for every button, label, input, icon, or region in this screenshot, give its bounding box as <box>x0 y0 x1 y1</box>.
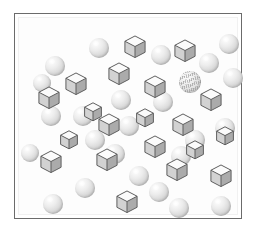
cube-object[interactable] <box>107 62 131 86</box>
cube-object[interactable] <box>59 130 79 150</box>
cube-faces <box>143 75 167 99</box>
panel-inner-border <box>18 17 238 215</box>
sphere-object[interactable] <box>21 144 39 162</box>
sphere-object[interactable] <box>149 182 169 202</box>
cube-faces <box>215 126 235 146</box>
cube-object[interactable] <box>185 140 205 160</box>
cube-faces <box>171 113 195 137</box>
sphere-object[interactable] <box>111 90 131 110</box>
stimulus-canvas <box>0 0 258 234</box>
cube-faces <box>135 108 155 128</box>
sphere-object[interactable] <box>129 166 149 186</box>
sphere-object[interactable] <box>199 53 219 73</box>
sphere-object[interactable] <box>169 198 189 218</box>
cube-faces <box>143 135 167 159</box>
cube-object[interactable] <box>165 158 189 182</box>
cube-faces <box>165 158 189 182</box>
sphere-object[interactable] <box>43 194 63 214</box>
cube-faces <box>64 72 88 96</box>
cube-object[interactable] <box>199 88 223 112</box>
cube-faces <box>123 35 147 59</box>
cube-faces <box>185 140 205 160</box>
cube-faces <box>83 102 103 122</box>
cube-faces <box>209 164 233 188</box>
sphere-object[interactable] <box>75 178 95 198</box>
cube-faces <box>173 39 197 63</box>
cube-object[interactable] <box>209 164 233 188</box>
cube-object[interactable] <box>39 150 63 174</box>
cube-object[interactable] <box>115 190 139 214</box>
cube-faces <box>37 86 61 110</box>
cube-faces <box>115 190 139 214</box>
cube-object[interactable] <box>95 148 119 172</box>
cube-faces <box>59 130 79 150</box>
cube-faces <box>199 88 223 112</box>
cube-object[interactable] <box>37 86 61 110</box>
cube-faces <box>39 150 63 174</box>
sphere-object[interactable] <box>89 38 109 58</box>
sphere-object[interactable] <box>223 68 243 88</box>
cube-object[interactable] <box>64 72 88 96</box>
textured-sphere-target[interactable] <box>179 71 201 93</box>
sphere-object[interactable] <box>219 34 239 54</box>
sphere-object[interactable] <box>151 45 171 65</box>
cube-object[interactable] <box>143 75 167 99</box>
object-scene <box>19 18 237 214</box>
cube-object[interactable] <box>143 135 167 159</box>
cube-object[interactable] <box>173 39 197 63</box>
cube-object[interactable] <box>123 35 147 59</box>
stimulus-panel <box>14 13 242 219</box>
cube-faces <box>95 148 119 172</box>
cube-object[interactable] <box>83 102 103 122</box>
sphere-object[interactable] <box>45 56 65 76</box>
cube-object[interactable] <box>135 108 155 128</box>
cube-object[interactable] <box>215 126 235 146</box>
cube-faces <box>107 62 131 86</box>
sphere-object[interactable] <box>211 196 231 216</box>
cube-object[interactable] <box>171 113 195 137</box>
